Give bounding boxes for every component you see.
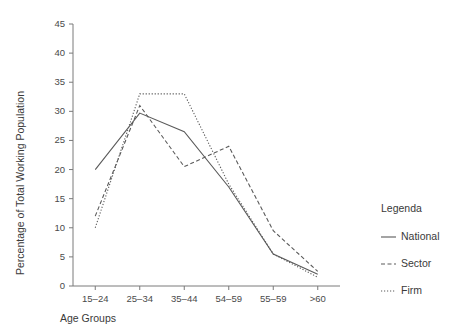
- series-line-firm: [95, 94, 318, 277]
- x-tick-label: >60: [310, 293, 326, 304]
- y-tick-label: 40: [54, 47, 65, 58]
- y-tick-label: 15: [54, 193, 65, 204]
- y-axis-ticks: 051015202530354045: [54, 18, 73, 291]
- x-axis: 15–2425–3435–4454–5955–59>60: [73, 286, 340, 304]
- series-line-sector: [95, 106, 318, 272]
- legend-label-national: National: [401, 230, 440, 242]
- y-tick-label: 25: [54, 134, 65, 145]
- y-tick-label: 30: [54, 105, 65, 116]
- x-tick-label: 55–59: [260, 293, 286, 304]
- line-chart: 051015202530354045 15–2425–3435–4454–595…: [0, 0, 450, 333]
- y-tick-label: 20: [54, 164, 65, 175]
- x-tick-label: 35–44: [171, 293, 197, 304]
- legend-label-sector: Sector: [401, 257, 432, 269]
- x-tick-label: 54–59: [216, 293, 242, 304]
- x-tick-label: 25–34: [127, 293, 153, 304]
- y-tick-label: 0: [60, 280, 65, 291]
- chart-canvas: 051015202530354045 15–2425–3435–4454–595…: [0, 0, 450, 333]
- y-tick-label: 10: [54, 222, 65, 233]
- series-line-national: [95, 113, 318, 274]
- y-axis: 051015202530354045: [54, 18, 73, 291]
- y-tick-label: 35: [54, 76, 65, 87]
- legend-label-firm: Firm: [401, 284, 422, 296]
- y-tick-label: 5: [60, 251, 65, 262]
- y-axis-title: Percentage of Total Working Population: [14, 91, 26, 275]
- series-lines: [95, 94, 318, 277]
- x-tick-label: 15–24: [82, 293, 108, 304]
- chart-legend: Legenda NationalSectorFirm: [381, 202, 440, 296]
- y-tick-label: 45: [54, 18, 65, 29]
- x-axis-title: Age Groups: [60, 312, 116, 324]
- x-axis-ticks: 15–2425–3435–4454–5955–59>60: [82, 286, 326, 304]
- legend-title: Legenda: [381, 202, 422, 214]
